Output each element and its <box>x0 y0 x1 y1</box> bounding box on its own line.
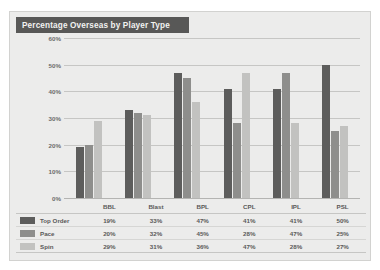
chart-panel: Percentage Overseas by Player Type 0%10%… <box>9 11 371 261</box>
data-table: BBLBlastBPLCPLIPLPSLTop Order19%33%47%41… <box>16 200 366 253</box>
table-cell-value: 19% <box>86 214 133 227</box>
chart-title-bar: Percentage Overseas by Player Type <box>16 17 189 33</box>
table-corner-cell <box>38 200 86 214</box>
y-axis: 0%10%20%30%40%50%60% <box>24 38 64 198</box>
legend-series-label: Spin <box>38 240 86 253</box>
bar-group <box>113 38 162 198</box>
y-axis-tick-label: 50% <box>49 61 61 68</box>
bar <box>233 123 241 198</box>
bar-group <box>163 38 212 198</box>
bar <box>340 126 348 198</box>
bar <box>224 89 232 198</box>
column-header: CPL <box>226 200 273 214</box>
bar <box>125 110 133 198</box>
table-cell-value: 20% <box>86 227 133 240</box>
legend-series-label: Pace <box>38 227 86 240</box>
y-axis-tick-label: 10% <box>49 168 61 175</box>
table-corner-cell <box>16 200 38 214</box>
table-cell-value: 27% <box>319 240 366 253</box>
table-cell-value: 25% <box>319 227 366 240</box>
table-cell-value: 45% <box>179 227 226 240</box>
legend-swatch-cell <box>16 240 38 253</box>
column-header: Blast <box>133 200 180 214</box>
table-cell-value: 29% <box>86 240 133 253</box>
bar <box>134 113 142 198</box>
legend-swatch <box>20 217 35 224</box>
y-axis-tick-label: 20% <box>49 141 61 148</box>
table-cell-value: 47% <box>179 214 226 227</box>
gridline <box>64 198 360 199</box>
table-cell-value: 41% <box>273 214 320 227</box>
bar <box>192 102 200 198</box>
table-cell-value: 32% <box>133 227 180 240</box>
table-cell-value: 41% <box>226 214 273 227</box>
column-header: IPL <box>273 200 320 214</box>
table-header-row: BBLBlastBPLCPLIPLPSL <box>16 200 366 214</box>
bar <box>273 89 281 198</box>
chart-title: Percentage Overseas by Player Type <box>22 21 170 30</box>
bar <box>183 78 191 198</box>
bar-group <box>212 38 261 198</box>
y-axis-tick-label: 60% <box>49 35 61 42</box>
legend-series-label: Top Order <box>38 214 86 227</box>
table-row: Top Order19%33%47%41%41%50% <box>16 214 366 227</box>
legend-swatch-cell <box>16 227 38 240</box>
table-cell-value: 31% <box>133 240 180 253</box>
bar <box>331 131 339 198</box>
bar <box>85 145 93 198</box>
chart-data-table: BBLBlastBPLCPLIPLPSLTop Order19%33%47%41… <box>16 200 366 253</box>
bar <box>322 65 330 198</box>
table-cell-value: 28% <box>273 240 320 253</box>
bar <box>282 73 290 198</box>
table-row: Pace20%32%45%28%47%25% <box>16 227 366 240</box>
y-axis-tick-label: 30% <box>49 115 61 122</box>
table-cell-value: 36% <box>179 240 226 253</box>
bar <box>143 115 151 198</box>
plot-area: 0%10%20%30%40%50%60% <box>10 38 370 208</box>
bar-group <box>311 38 360 198</box>
y-axis-tick-label: 40% <box>49 88 61 95</box>
table-cell-value: 28% <box>226 227 273 240</box>
legend-swatch <box>20 243 35 250</box>
bar <box>291 123 299 198</box>
bars-layer <box>64 38 360 198</box>
bar <box>242 73 250 198</box>
bar-group <box>64 38 113 198</box>
bar <box>174 73 182 198</box>
legend-swatch <box>20 230 35 237</box>
table-cell-value: 47% <box>226 240 273 253</box>
table-cell-value: 50% <box>319 214 366 227</box>
bar <box>94 121 102 198</box>
column-header: PSL <box>319 200 366 214</box>
column-header: BPL <box>179 200 226 214</box>
legend-swatch-cell <box>16 214 38 227</box>
column-header: BBL <box>86 200 133 214</box>
table-cell-value: 47% <box>273 227 320 240</box>
bar-group <box>261 38 310 198</box>
bar <box>76 147 84 198</box>
table-row: Spin29%31%36%47%28%27% <box>16 240 366 253</box>
table-cell-value: 33% <box>133 214 180 227</box>
